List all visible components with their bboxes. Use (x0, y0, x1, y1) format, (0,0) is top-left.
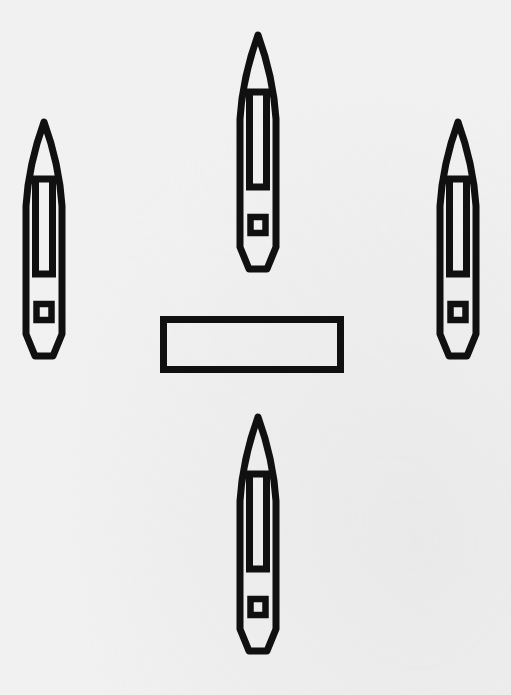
figure-canvas (0, 0, 511, 695)
figure-svg (0, 0, 511, 695)
center-bar (164, 320, 341, 370)
vessel-top (240, 35, 276, 269)
vessel-right (440, 122, 476, 356)
vessel-left (26, 122, 62, 356)
vessel-bottom (240, 417, 276, 651)
